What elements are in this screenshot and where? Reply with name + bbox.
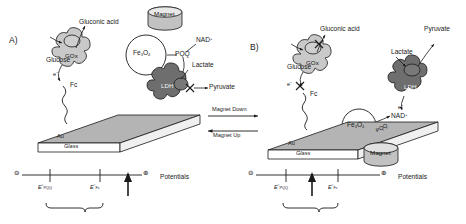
panel-a-electron-arrow: [58, 65, 62, 81]
panel-a-pqq-label: PQQ: [175, 51, 190, 58]
panel-a-potential-axis: [22, 169, 142, 212]
panel-b-axis-tick-fc: E°Fc: [328, 184, 338, 190]
scheme-figure: A) Glucose Gluconic acid GOx e- Fc Magne…: [0, 0, 466, 224]
panel-b-fc-tether: [302, 93, 307, 130]
panel-a-nad-label: NAD+: [196, 37, 212, 44]
panel-b-magnet-label: Magnet: [370, 150, 391, 156]
panel-b-glass-layer-label: Glass: [296, 151, 310, 157]
switch-forward-label: Magnet Down: [212, 107, 247, 113]
panel-a-glass-layer-label: Glass: [64, 144, 78, 150]
panel-a-electron-label: e-: [53, 70, 58, 78]
panel-a-ldh-substrate-label: Lactate: [192, 62, 214, 69]
panel-b-range-brace: [283, 203, 338, 212]
panel-a-applied-potential-arrow: [124, 172, 132, 196]
panel-a-axis-title: Potentials: [160, 174, 189, 181]
panel-a-axis-positive-symbol: ⊕: [143, 170, 149, 177]
panel-b-gox-product-label: Gluconic acid: [320, 26, 360, 33]
panel-b-fe3o4-label: Fe3O4: [347, 122, 364, 129]
switch-arrows: [208, 116, 258, 131]
panel-a-ldh-product-label: Pyruvate: [209, 84, 235, 91]
switch-reverse-label: Magnet Up: [213, 133, 240, 139]
panel-a-fc-label: Fc: [70, 82, 77, 89]
panel-a-gox-product-label: Gluconic acid: [79, 19, 119, 26]
panel-a-range-brace: [46, 203, 103, 212]
panel-b-au-layer-label: Au: [288, 141, 295, 147]
panel-b-ldh-name: LDH: [404, 84, 416, 90]
panel-b-applied-potential-arrow: [308, 172, 316, 196]
panel-a-au-layer-label: Au: [57, 134, 64, 140]
panel-b-ldh-electron-label: e-: [398, 103, 403, 111]
panel-a-id: A): [9, 36, 18, 45]
panel-a-axis-negative-symbol: ⊖: [14, 170, 20, 177]
panel-b-potential-axis: [256, 169, 380, 212]
panel-b-ldh-product-label: Pyruvate: [424, 26, 450, 33]
panel-b-gox-name: GOx: [306, 60, 319, 66]
panel-b-axis-tick-pqq: E°PQQ: [274, 184, 288, 190]
panel-a-blocked-x-mark: [186, 84, 194, 92]
panel-a-magnet-label: Magnet: [154, 11, 175, 17]
panel-b-axis-title: Potentials: [398, 174, 427, 181]
panel-b-blocked-x-mark-electron: [296, 82, 304, 90]
panel-a-graphics: [22, 7, 208, 212]
panel-a-axis-tick-fc: E°Fc: [90, 184, 100, 190]
panel-a-axis-tick-pqq: E°PQQ: [38, 184, 52, 190]
panel-a-fe3o4-label: Fe3O4: [133, 50, 150, 57]
panel-a-gox-name: GOx: [65, 53, 78, 59]
panel-b-pyruvate-arrow: [418, 44, 434, 66]
panel-b-nad-label: NAD+: [391, 113, 407, 120]
panel-b-nad-to-pqq-arrow: [376, 116, 390, 122]
panel-b-ldh-substrate-label: Lactate: [391, 49, 413, 56]
panel-a-fc-tether: [62, 86, 67, 124]
panel-b-electron-label: e-: [287, 80, 292, 88]
panel-b-id: B): [250, 43, 259, 52]
panel-b-axis-positive-symbol: ⊕: [381, 170, 387, 177]
panel-a-ldh-name: LDH: [161, 83, 173, 89]
panel-b-axis-negative-symbol: ⊖: [248, 170, 254, 177]
panel-b-fc-label: Fc: [310, 91, 317, 98]
